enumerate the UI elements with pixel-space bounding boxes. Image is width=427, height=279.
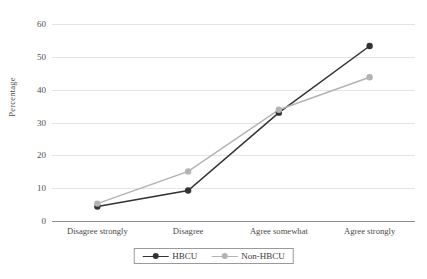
data-point-marker (366, 43, 372, 49)
data-point-marker (185, 168, 191, 174)
data-point-marker (366, 74, 372, 80)
legend-label: HBCU (172, 251, 197, 261)
data-point-marker (185, 187, 191, 193)
y-axis-title: Percentage (7, 57, 17, 137)
plot-area: 0102030405060 (52, 24, 415, 221)
y-axis-tick-label: 40 (37, 85, 46, 95)
legend-label: Non-HBCU (241, 251, 285, 261)
y-axis-tick-label: 30 (37, 118, 46, 128)
x-axis-line (52, 221, 415, 222)
chart-figure: Percentage 0102030405060 Disagree strong… (0, 0, 427, 279)
series-lines-group (52, 24, 415, 221)
data-point-marker (276, 106, 282, 112)
chart-legend: HBCUNon-HBCU (133, 248, 294, 264)
y-axis-tick-label: 60 (37, 19, 46, 29)
y-axis-tick-label: 50 (37, 52, 46, 62)
legend-marker-icon (142, 252, 168, 261)
y-axis-tick-label: 20 (37, 150, 46, 160)
x-axis-tick-label: Agree somewhat (250, 226, 308, 236)
y-axis-tick-label: 10 (37, 183, 46, 193)
y-axis-tick-label: 0 (42, 216, 47, 226)
series-line-non-hbcu (97, 77, 369, 203)
legend-item-hbcu[interactable]: HBCU (142, 251, 197, 261)
series-line-hbcu (97, 46, 369, 207)
data-point-marker (94, 200, 100, 206)
legend-marker-icon (211, 252, 237, 261)
x-axis-tick-label: Disagree strongly (67, 226, 128, 236)
legend-item-non-hbcu[interactable]: Non-HBCU (211, 251, 285, 261)
x-axis-tick-label: Disagree (173, 226, 204, 236)
x-axis-tick-label: Agree strongly (344, 226, 395, 236)
